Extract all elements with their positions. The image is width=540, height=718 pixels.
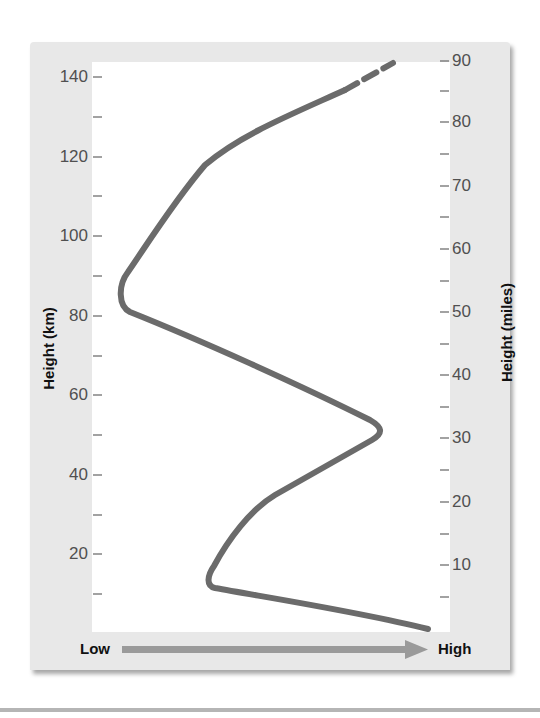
right-tick-label: 30 xyxy=(452,429,492,446)
right-tick-label: 40 xyxy=(452,366,492,383)
left-tick-label: 20 xyxy=(38,545,88,562)
right-axis-ticks xyxy=(440,61,449,597)
right-tick-label: 60 xyxy=(452,240,492,257)
right-tick-label: 10 xyxy=(452,556,492,573)
right-tick-label: 20 xyxy=(452,493,492,510)
chart-overlay xyxy=(0,0,540,718)
right-axis-title: Height (miles) xyxy=(498,263,515,403)
temperature-curve-dashed-extension xyxy=(345,63,393,90)
left-axis-ticks xyxy=(93,77,102,594)
left-tick-label: 140 xyxy=(38,68,88,85)
right-tick-label: 50 xyxy=(452,303,492,320)
left-tick-label: 100 xyxy=(38,227,88,244)
bottom-rule xyxy=(0,708,540,712)
left-axis-title: Height (km) xyxy=(40,289,57,409)
low-high-arrow xyxy=(122,640,428,659)
left-tick-label: 40 xyxy=(38,466,88,483)
right-tick-label: 90 xyxy=(452,52,492,69)
left-tick-label: 120 xyxy=(38,148,88,165)
low-label: Low xyxy=(80,640,110,657)
right-tick-label: 70 xyxy=(452,177,492,194)
temperature-curve xyxy=(121,90,428,629)
high-label: High xyxy=(438,640,471,657)
right-tick-label: 80 xyxy=(452,113,492,130)
